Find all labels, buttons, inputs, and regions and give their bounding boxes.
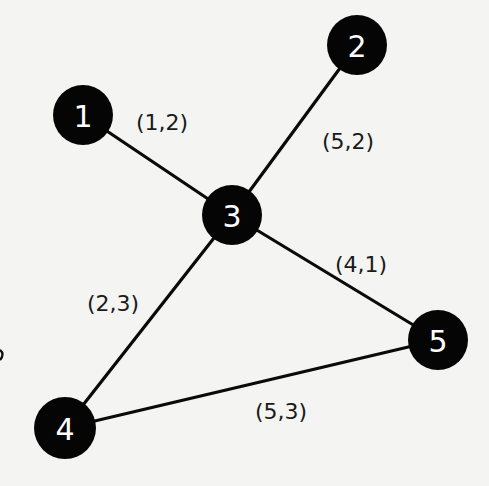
edge-labels-layer: (1,2)(5,2)(4,1)(2,3)(5,3) bbox=[87, 110, 387, 424]
edge-label-1-3: (1,2) bbox=[136, 110, 188, 135]
stray-mark bbox=[0, 350, 3, 360]
node-5: 5 bbox=[408, 310, 468, 370]
edge-label-4-5: (5,3) bbox=[255, 399, 307, 424]
graph-diagram: (1,2)(5,2)(4,1)(2,3)(5,3) 12345 bbox=[0, 0, 489, 486]
nodes-layer: 12345 bbox=[34, 15, 468, 459]
edge-label-2-3: (5,2) bbox=[322, 129, 374, 154]
edge-label-3-5: (4,1) bbox=[335, 252, 387, 277]
node-label: 2 bbox=[347, 29, 366, 64]
graph-canvas: (1,2)(5,2)(4,1)(2,3)(5,3) 12345 bbox=[0, 0, 489, 486]
edge-label-3-4: (2,3) bbox=[87, 291, 139, 316]
node-label: 1 bbox=[73, 99, 92, 134]
node-4: 4 bbox=[34, 397, 96, 459]
edge-3-5 bbox=[232, 215, 438, 340]
node-1: 1 bbox=[53, 85, 113, 145]
node-label: 4 bbox=[55, 412, 74, 447]
node-3: 3 bbox=[202, 185, 262, 245]
node-2: 2 bbox=[327, 15, 387, 75]
node-label: 3 bbox=[222, 199, 241, 234]
edge-4-5 bbox=[65, 340, 438, 428]
node-label: 5 bbox=[428, 324, 447, 359]
